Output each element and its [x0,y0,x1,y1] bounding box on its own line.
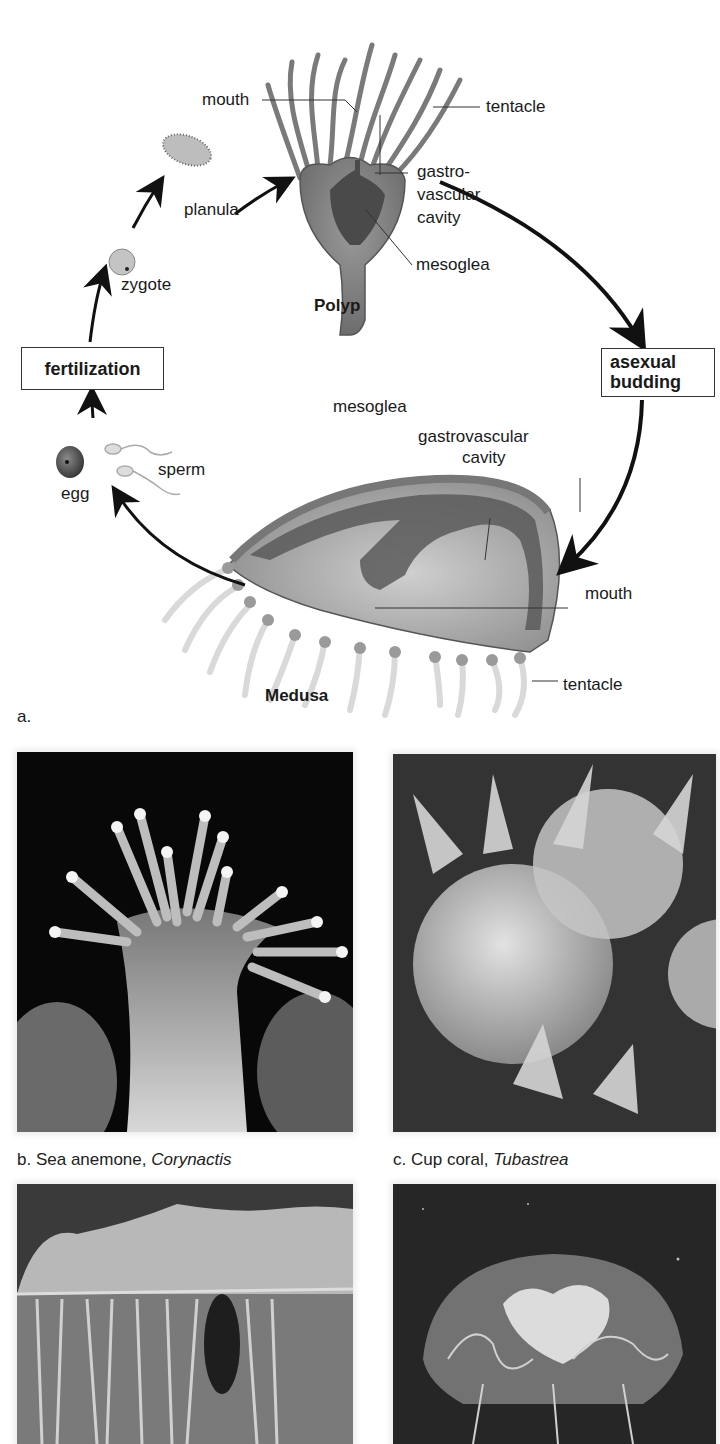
photo-moon-jellyfish [393,1184,716,1444]
medusa-gastro-label-2: cavity [462,448,505,467]
polyp-tentacle-label: tentacle [486,97,546,116]
polyp-gastro-label-3: cavity [417,208,460,227]
medusa-tentacle-label: tentacle [563,675,623,694]
zygote-label: zygote [121,275,171,294]
asexual-label: asexual [610,352,706,372]
medusa-title: Medusa [265,686,328,705]
fertilization-label: fertilization [44,359,140,379]
photo-portuguese-man-of-war [17,1184,353,1444]
moon-jellyfish-image [393,1184,716,1444]
zygote-illustration [109,249,135,275]
polyp-title: Polyp [314,296,360,315]
cup-coral-image [393,754,716,1132]
polyp-gastro-label-2: vascular [417,185,480,204]
planula-label: planula [184,200,239,219]
planula-illustration [159,128,216,171]
photo-cup-coral [393,754,716,1132]
medusa-mouth-label: mouth [585,584,632,603]
medusa-mesoglea-label: mesoglea [333,397,407,416]
sea-anemone-image [17,752,353,1132]
panel-a-label: a. [17,707,31,726]
caption-b: b. Sea anemone, Corynactis [17,1150,232,1170]
genus-tubastrea: Tubastrea [493,1150,568,1169]
medusa-gastro-label-1: gastrovascular [418,427,529,446]
egg-label: egg [61,484,89,503]
sperm-label: sperm [158,460,205,479]
budding-label: budding [610,372,706,392]
fertilization-box: fertilization [21,347,164,390]
caption-c: c. Cup coral, Tubastrea [393,1150,568,1170]
polyp-tentacles [268,45,460,178]
man-of-war-image [17,1184,353,1444]
egg-illustration [56,446,84,478]
polyp-mouth-label: mouth [202,90,249,109]
asexual-budding-box: asexual budding [601,348,715,397]
genus-corynactis: Corynactis [151,1150,231,1169]
photo-sea-anemone [17,752,353,1132]
polyp-gastro-label-1: gastro- [417,162,470,181]
polyp-mesoglea-label: mesoglea [416,255,490,274]
